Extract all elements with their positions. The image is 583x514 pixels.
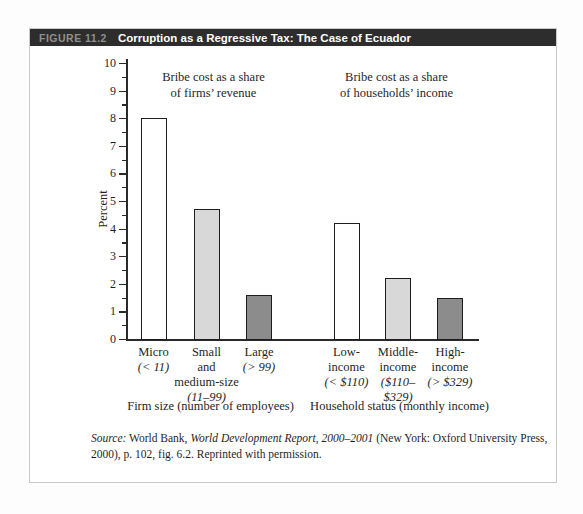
y-axis-major-tick bbox=[119, 311, 126, 312]
group-caption-2: Household status (monthly income) bbox=[310, 399, 489, 414]
bar-label-line: Middle- bbox=[378, 345, 418, 360]
bar-label-small-and-medium-size: Smallandmedium-size(11–99) bbox=[174, 345, 239, 405]
y-axis-major-tick bbox=[119, 173, 126, 174]
bar-label-qualifier: (> $329) bbox=[428, 375, 473, 390]
y-axis-minor-tick bbox=[122, 298, 126, 299]
figure-number-label: FIGURE 11.2 bbox=[30, 32, 107, 44]
chart-annotation-group-2: Bribe cost as a shareof households’ inco… bbox=[340, 69, 453, 101]
bar-label-line: medium-size bbox=[174, 375, 239, 390]
y-axis-major-tick bbox=[119, 118, 126, 119]
y-axis-minor-tick bbox=[122, 104, 126, 105]
bar-large bbox=[246, 295, 272, 340]
bar-label-qualifier: ($110– bbox=[378, 375, 418, 390]
y-axis-major-tick bbox=[119, 63, 126, 64]
bar-label-line: income bbox=[325, 360, 369, 375]
figure-box: FIGURE 11.2 Corruption as a Regressive T… bbox=[29, 28, 557, 483]
y-axis-tick-label: 7 bbox=[92, 139, 116, 153]
y-axis-tick-label: 0 bbox=[92, 332, 116, 346]
bar-label-line: Small bbox=[174, 345, 239, 360]
bar-label-large: Large(> 99) bbox=[243, 345, 275, 375]
bar-label-qualifier: (> 99) bbox=[243, 360, 275, 375]
y-axis-title: Percent bbox=[96, 190, 111, 227]
chart-area: 012345678910PercentBribe cost as a share… bbox=[30, 46, 556, 446]
y-axis-major-tick bbox=[119, 284, 126, 285]
chart-annotation-group-1: Bribe cost as a shareof firms’ revenue bbox=[162, 69, 265, 101]
y-axis-tick-label: 9 bbox=[92, 84, 116, 98]
y-axis-line bbox=[126, 59, 128, 341]
y-axis-minor-tick bbox=[122, 132, 126, 133]
bar-label-line: Micro bbox=[138, 345, 169, 360]
figure-header-bar: FIGURE 11.2 Corruption as a Regressive T… bbox=[30, 29, 556, 46]
source-note-segment: World Development Report, 2000–2001 bbox=[190, 432, 373, 444]
bar-label-low-income: Low-income(< $110) bbox=[325, 345, 369, 390]
x-axis-line bbox=[126, 339, 479, 341]
bar-high-income bbox=[437, 298, 463, 340]
y-axis-minor-tick bbox=[122, 187, 126, 188]
y-axis-major-tick bbox=[119, 91, 126, 92]
y-axis-major-tick bbox=[119, 146, 126, 147]
annotation-line: of firms’ revenue bbox=[162, 85, 265, 101]
y-axis-major-tick bbox=[119, 201, 126, 202]
bar-label-line: High- bbox=[428, 345, 473, 360]
bar-label-line: income bbox=[378, 360, 418, 375]
page-background: FIGURE 11.2 Corruption as a Regressive T… bbox=[0, 0, 583, 514]
y-axis-tick-label: 2 bbox=[92, 277, 116, 291]
y-axis-major-tick bbox=[119, 229, 126, 230]
y-axis-minor-tick bbox=[122, 215, 126, 216]
annotation-line: Bribe cost as a share bbox=[162, 69, 265, 85]
annotation-line: of households’ income bbox=[340, 85, 453, 101]
y-axis-minor-tick bbox=[122, 77, 126, 78]
y-axis-major-tick bbox=[119, 339, 126, 340]
bar-label-line: income bbox=[428, 360, 473, 375]
bar-label-qualifier: (< $110) bbox=[325, 375, 369, 390]
bar-label-high-income: High-income(> $329) bbox=[428, 345, 473, 390]
bar-low-income bbox=[334, 223, 360, 340]
source-note-segment: World Bank, bbox=[126, 432, 190, 444]
y-axis-tick-label: 1 bbox=[92, 304, 116, 318]
bar-label-middle-income: Middle-income($110–$329) bbox=[378, 345, 418, 405]
bar-micro bbox=[141, 118, 167, 340]
y-axis-tick-label: 10 bbox=[92, 56, 116, 70]
y-axis-tick-label: 6 bbox=[92, 166, 116, 180]
bar-small-and-medium-size bbox=[194, 209, 220, 340]
bar-middle-income bbox=[385, 278, 411, 340]
y-axis-minor-tick bbox=[122, 160, 126, 161]
figure-title: Corruption as a Regressive Tax: The Case… bbox=[118, 32, 411, 44]
source-note-segment: Source: bbox=[91, 432, 126, 444]
y-axis-minor-tick bbox=[122, 325, 126, 326]
group-caption-1: Firm size (number of employees) bbox=[127, 399, 294, 414]
source-note: Source: World Bank, World Development Re… bbox=[91, 431, 577, 462]
y-axis-minor-tick bbox=[122, 270, 126, 271]
bar-label-line: Low- bbox=[325, 345, 369, 360]
bar-label-qualifier: (< 11) bbox=[138, 360, 169, 375]
y-axis-minor-tick bbox=[122, 242, 126, 243]
y-axis-tick-label: 8 bbox=[92, 111, 116, 125]
bar-label-micro: Micro(< 11) bbox=[138, 345, 169, 375]
annotation-line: Bribe cost as a share bbox=[340, 69, 453, 85]
bar-label-line: Large bbox=[243, 345, 275, 360]
y-axis-tick-label: 3 bbox=[92, 249, 116, 263]
y-axis-major-tick bbox=[119, 256, 126, 257]
bar-label-line: and bbox=[174, 360, 239, 375]
